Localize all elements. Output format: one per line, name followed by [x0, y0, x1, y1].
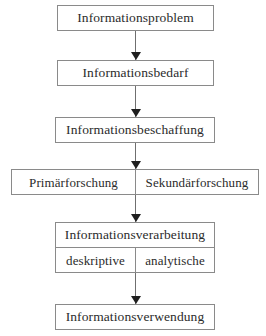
node-cell-deskriptive[interactable]: deskriptive	[56, 248, 135, 272]
node-label-primaerforschung: Primärforschung	[29, 176, 118, 189]
node-cell-sekundaerforschung[interactable]: Sekundärforschung	[135, 170, 258, 194]
arrow-down-icon	[131, 296, 141, 304]
node-label-informationsverarbeitung: Informationsverarbeitung	[65, 228, 205, 242]
node-label-sekundaerforschung: Sekundärforschung	[146, 176, 249, 189]
node-subrow-informationsverarbeitung: deskriptive analytische	[56, 247, 214, 272]
node-label-informationsverwendung: Informationsverwendung	[66, 310, 205, 324]
node-label-analytische: analytische	[145, 254, 205, 267]
node-informationsproblem[interactable]: Informationsproblem	[57, 5, 214, 31]
arrow-down-icon	[131, 161, 141, 169]
node-label-informationsbeschaffung: Informationsbeschaffung	[66, 123, 204, 137]
node-informationsverwendung[interactable]: Informationsverwendung	[55, 304, 215, 330]
arrow-down-icon	[131, 109, 141, 117]
flowchart-diagram: Informationsproblem Informationsbedarf I…	[0, 0, 266, 336]
arrow-down-icon	[131, 214, 141, 222]
node-informationsverarbeitung[interactable]: Informationsverarbeitung deskriptive ana…	[55, 222, 215, 273]
node-label-informationsproblem: Informationsproblem	[77, 11, 194, 25]
node-title-row-informationsverarbeitung: Informationsverarbeitung	[56, 223, 214, 247]
arrow-down-icon	[131, 52, 141, 60]
node-cell-analytische[interactable]: analytische	[135, 248, 214, 272]
node-label-deskriptive: deskriptive	[66, 254, 125, 267]
node-informationsbeschaffung[interactable]: Informationsbeschaffung	[55, 117, 215, 143]
node-label-informationsbedarf: Informationsbedarf	[82, 66, 188, 80]
node-informationsbedarf[interactable]: Informationsbedarf	[57, 60, 214, 86]
node-forschung-split[interactable]: Primärforschung Sekundärforschung	[11, 169, 259, 195]
node-cell-primaerforschung[interactable]: Primärforschung	[12, 170, 135, 194]
